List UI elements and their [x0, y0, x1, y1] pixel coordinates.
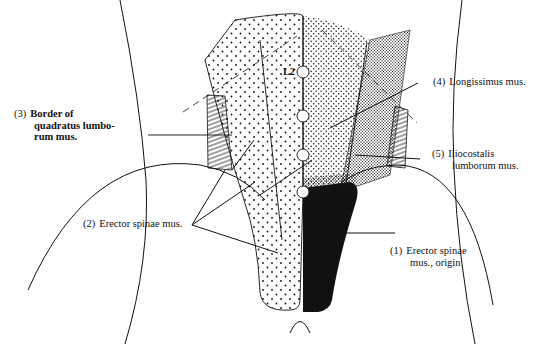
- body-outline-right: [453, 0, 475, 344]
- label-1: (1)Erector spinae mus., origin: [390, 245, 467, 268]
- anatomy-diagram: [0, 0, 542, 344]
- label-3: (3)Border of quadratus lumbo- rum mus.: [14, 108, 115, 143]
- coccyx: [290, 322, 310, 334]
- vertebra-label-l2: L2: [283, 66, 295, 77]
- label-4: (4)Longissimus mus.: [433, 76, 526, 88]
- label-5: (5)Iliocostalis lumborum mus.: [432, 148, 519, 171]
- erector-origin-black: [303, 182, 358, 312]
- label-2: (2)Erector spinae mus.: [83, 218, 182, 230]
